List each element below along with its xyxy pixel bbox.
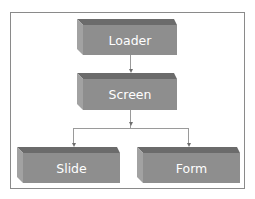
connector-loader-screen — [130, 55, 131, 70]
node-slide: Slide — [17, 147, 120, 183]
connector-horizontal — [73, 128, 188, 129]
arrowhead-icon — [129, 122, 133, 126]
node-label: Slide — [56, 161, 87, 176]
node-label: Screen — [109, 87, 152, 102]
node-front-face: Screen — [83, 79, 177, 110]
node-label: Loader — [109, 33, 152, 48]
node-front-face: Form — [143, 153, 240, 183]
connector-to-form — [188, 128, 189, 144]
node-label: Form — [176, 161, 208, 176]
node-form: Form — [137, 147, 240, 183]
node-front-face: Loader — [83, 25, 177, 55]
connector-to-slide — [73, 128, 74, 144]
node-front-face: Slide — [23, 153, 120, 183]
node-loader: Loader — [77, 19, 177, 55]
node-screen: Screen — [77, 73, 177, 110]
